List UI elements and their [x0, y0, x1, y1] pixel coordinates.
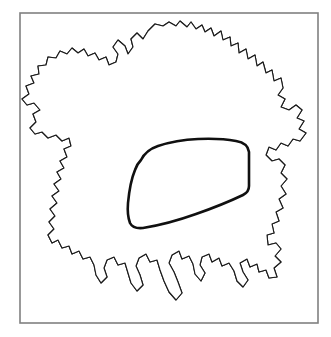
- figure-root: [0, 0, 331, 337]
- cell-illustration: [0, 0, 331, 337]
